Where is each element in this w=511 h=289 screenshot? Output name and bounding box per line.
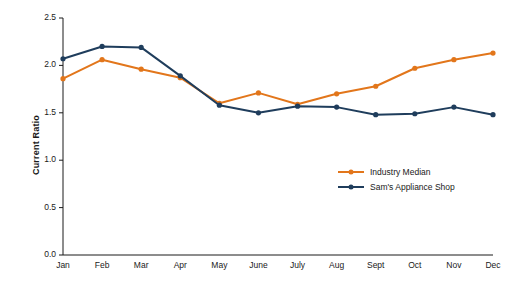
data-point [295, 104, 300, 109]
data-point [373, 112, 378, 117]
data-point [99, 44, 104, 49]
data-point [412, 66, 417, 71]
data-point [373, 84, 378, 89]
y-tick-label: 1.5 [20, 107, 56, 117]
y-tick-label: 0.5 [20, 202, 56, 212]
legend-swatch-sams-appliance-shop [338, 186, 364, 188]
legend-label-industry-median: Industry Median [370, 167, 430, 177]
data-point [451, 105, 456, 110]
data-point [451, 57, 456, 62]
data-point [99, 57, 104, 62]
x-tick-label: Dec [468, 260, 511, 270]
y-tick-label: 1.0 [20, 154, 56, 164]
data-point [178, 73, 183, 78]
data-point [139, 67, 144, 72]
chart-plot-area [0, 0, 511, 289]
chart-legend: Industry Median Sam's Appliance Shop [338, 164, 455, 194]
legend-item-1: Sam's Appliance Shop [338, 179, 455, 194]
data-point [490, 112, 495, 117]
legend-label-sams-appliance-shop: Sam's Appliance Shop [370, 182, 455, 192]
y-tick-label: 2.5 [20, 12, 56, 22]
series-line-1 [63, 46, 493, 114]
data-point [256, 110, 261, 115]
y-tick-label: 2.0 [20, 59, 56, 69]
data-point [334, 91, 339, 96]
series-line-0 [63, 53, 493, 104]
y-axis-ticks [59, 18, 63, 255]
legend-marker-dot [349, 169, 354, 174]
y-tick-label: 0.0 [20, 249, 56, 259]
data-point [490, 50, 495, 55]
series-layer [60, 44, 495, 117]
data-point [217, 103, 222, 108]
chart-container: Current Ratio 0.00.51.01.52.02.5 JanFebM… [0, 0, 511, 289]
data-point [60, 76, 65, 81]
data-point [139, 45, 144, 50]
data-point [412, 111, 417, 116]
data-point [334, 105, 339, 110]
data-point [256, 90, 261, 95]
legend-marker-dot [349, 184, 354, 189]
legend-item-0: Industry Median [338, 164, 455, 179]
data-point [60, 56, 65, 61]
legend-swatch-industry-median [338, 171, 364, 173]
